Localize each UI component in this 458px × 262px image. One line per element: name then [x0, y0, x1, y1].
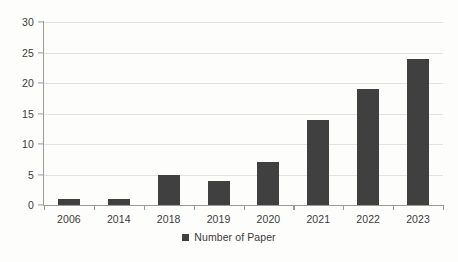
- bar-2019: [208, 181, 230, 205]
- x-axis-tick-label-2014: 2014: [107, 213, 131, 225]
- bar-2022: [357, 89, 379, 205]
- y-axis-tick-label: 30: [22, 16, 34, 28]
- bar-slot: [44, 22, 94, 205]
- bar-slot: [94, 22, 144, 205]
- y-axis-tick-label: 25: [22, 47, 34, 59]
- bar-2023: [407, 59, 429, 205]
- x-axis-tick-label-2018: 2018: [157, 213, 181, 225]
- x-axis-tick-mark: [443, 205, 444, 210]
- bar-slot: [293, 22, 343, 205]
- y-axis-tick-label: 15: [22, 108, 34, 120]
- bar-slot: [244, 22, 294, 205]
- x-axis-tick-mark: [44, 205, 45, 210]
- bar-slot: [144, 22, 194, 205]
- y-axis-tick-label: 5: [28, 169, 34, 181]
- x-axis-tick-mark: [293, 205, 294, 210]
- x-axis-tick-mark: [393, 205, 394, 210]
- x-axis-tick-label-2006: 2006: [57, 213, 81, 225]
- plot-area: [44, 22, 443, 205]
- legend-swatch-icon: [182, 234, 189, 241]
- bar-slot: [343, 22, 393, 205]
- bar-2018: [158, 175, 180, 206]
- bar-2021: [307, 120, 329, 205]
- legend-label-number-of-paper: Number of Paper: [194, 231, 275, 243]
- x-axis-tick-mark: [144, 205, 145, 210]
- y-axis-tick-label: 0: [28, 199, 34, 211]
- x-axis-tick-mark: [343, 205, 344, 210]
- y-axis-labels: 051015202530: [0, 0, 34, 262]
- y-axis-tick-label: 10: [22, 138, 34, 150]
- x-axis-tick-label-2020: 2020: [257, 213, 281, 225]
- x-axis-tick-label-2019: 2019: [207, 213, 231, 225]
- x-axis-tick-mark: [194, 205, 195, 210]
- x-axis-tick-label-2022: 2022: [356, 213, 380, 225]
- x-axis-tick-mark: [94, 205, 95, 210]
- bar-slot: [194, 22, 244, 205]
- x-axis-tick-label-2023: 2023: [406, 213, 430, 225]
- bar-slot: [393, 22, 443, 205]
- bar-2020: [257, 162, 279, 205]
- bar-chart: 051015202530 200620142018201920202021202…: [0, 0, 458, 262]
- x-axis-tick-mark: [244, 205, 245, 210]
- y-axis-tick-label: 20: [22, 77, 34, 89]
- chart-legend: Number of Paper: [0, 231, 458, 243]
- y-axis-line: [43, 21, 44, 206]
- x-axis-tick-label-2021: 2021: [306, 213, 330, 225]
